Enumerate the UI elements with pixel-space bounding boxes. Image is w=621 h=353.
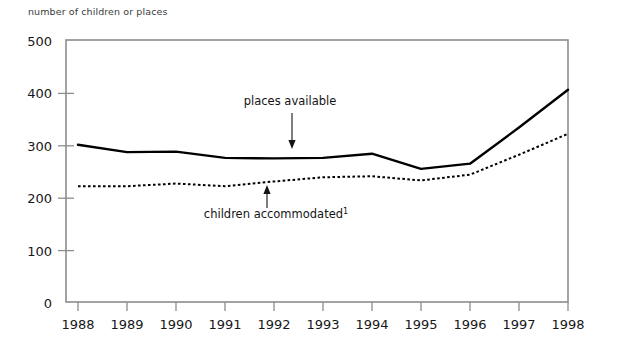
y-tick-label: 400 (27, 86, 52, 101)
x-tick-label: 1993 (306, 317, 339, 332)
x-tick-label: 1992 (257, 317, 290, 332)
y-tick-label: 500 (27, 34, 52, 49)
annotation-places-available: places available (244, 94, 337, 149)
x-tick-label: 1995 (404, 317, 437, 332)
arrow-up-icon (263, 185, 270, 194)
y-tick-label: 200 (27, 191, 52, 206)
x-tick-label: 1996 (453, 317, 486, 332)
x-tick-label: 1997 (502, 317, 535, 332)
y-axis-labels: 500 400 300 200 100 0 (27, 34, 52, 311)
annotation-label-text: children accommodated (204, 207, 343, 221)
annotation-label: children accommodated1 (204, 207, 348, 222)
chart-figure: number of children or places 500 400 300… (0, 0, 621, 353)
x-tick-label: 1988 (61, 317, 94, 332)
y-tick-label: 0 (44, 296, 52, 311)
x-tick-label: 1991 (208, 317, 241, 332)
x-tick-label: 1994 (355, 317, 388, 332)
annotation-footnote-marker: 1 (343, 207, 348, 216)
annotation-label: places available (244, 94, 337, 108)
x-axis-labels: 1988 1989 1990 1991 1992 1993 1994 1995 … (61, 317, 584, 332)
series-children-accommodated (78, 134, 568, 186)
arrow-down-icon (288, 140, 295, 149)
x-tick-label: 1989 (110, 317, 143, 332)
annotation-children-accommodated: children accommodated1 (204, 185, 348, 221)
x-axis-ticks (78, 302, 568, 311)
x-tick-label: 1998 (551, 317, 584, 332)
y-tick-label: 300 (27, 139, 52, 154)
plot-frame (66, 40, 568, 302)
chart-plot-area: 500 400 300 200 100 0 1988 1989 1990 (0, 0, 621, 353)
y-tick-label: 100 (27, 244, 52, 259)
x-tick-label: 1990 (159, 317, 192, 332)
